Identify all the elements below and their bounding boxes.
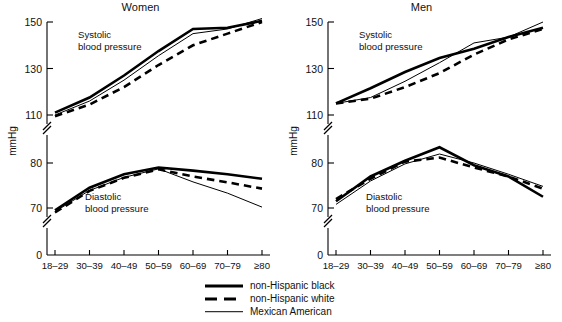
legend-label-non-hispanic-black: non-Hispanic black [250, 280, 335, 291]
legend-swatch-solid-thick-icon [205, 279, 243, 292]
y-tick-label: 70 [311, 202, 323, 214]
y-axis-title: mmHg [288, 126, 299, 155]
y-tick-label: 150 [24, 16, 42, 28]
axis-break-mark [43, 126, 51, 134]
annotation-systolic: Systolic [359, 29, 392, 40]
x-tick-label: 18–29 [323, 260, 350, 271]
y-tick-label: 130 [24, 63, 42, 75]
y-tick-label: 110 [306, 109, 323, 121]
annotation-systolic: blood pressure [359, 41, 422, 52]
y-tick-label: 80 [311, 157, 323, 169]
panel-title-men: Men [281, 1, 562, 13]
plot-men: 15013011080700mmHg18–2930–3940–4950–5960… [281, 14, 562, 276]
chart-panel-women: Women 15013011080700mmHg18–2930–3940–495… [0, 0, 281, 276]
x-tick-label: 60–69 [180, 260, 207, 271]
x-tick-label: 60–69 [461, 260, 488, 271]
legend-swatch-solid-thin-icon [205, 305, 243, 318]
x-tick-label: 50–59 [145, 260, 172, 271]
legend-item-non-hispanic-black: non-Hispanic black [205, 279, 405, 292]
annotation-systolic: Systolic [78, 29, 111, 40]
x-tick-label: 18–29 [42, 260, 69, 271]
annotation-diastolic: blood pressure [366, 203, 429, 214]
legend-item-mexican-american: Mexican American [205, 305, 405, 318]
annotation-diastolic: Diastolic [366, 191, 402, 202]
annotation-diastolic: blood pressure [85, 203, 148, 214]
plot-women: 15013011080700mmHg18–2930–3940–4950–5960… [0, 14, 281, 276]
y-axis-title: mmHg [7, 126, 18, 155]
x-tick-label: 70–79 [495, 260, 522, 271]
y-tick-label: 150 [305, 16, 323, 28]
annotation-systolic: blood pressure [78, 41, 141, 52]
legend-label-non-hispanic-white: non-Hispanic white [250, 293, 335, 304]
y-tick-label: 110 [25, 109, 42, 121]
y-tick-label: 70 [30, 202, 42, 214]
x-tick-label: 70–79 [214, 260, 241, 271]
panel-title-women: Women [0, 1, 281, 13]
x-tick-label: 40–49 [111, 260, 138, 271]
x-tick-label: 40–49 [392, 260, 419, 271]
axis-break-mark [324, 219, 332, 227]
chart-panel-men: Men 15013011080700mmHg18–2930–3940–4950–… [281, 0, 562, 276]
x-tick-label: ≥80 [535, 260, 551, 271]
x-tick-label: 30–39 [357, 260, 384, 271]
legend-item-non-hispanic-white: non-Hispanic white [205, 292, 405, 305]
y-tick-label: 80 [30, 157, 42, 169]
axis-break-mark [43, 219, 51, 227]
x-tick-label: ≥80 [254, 260, 270, 271]
x-tick-label: 50–59 [426, 260, 453, 271]
y-tick-label: 130 [305, 63, 323, 75]
annotation-diastolic: Diastolic [85, 191, 121, 202]
figure-root: Women 15013011080700mmHg18–2930–3940–495… [0, 0, 562, 322]
legend: non-Hispanic black non-Hispanic white Me… [205, 279, 405, 318]
x-tick-label: 30–39 [76, 260, 103, 271]
axis-break-mark [324, 126, 332, 134]
legend-swatch-dashed-thick-icon [205, 292, 243, 305]
legend-label-mexican-american: Mexican American [250, 306, 332, 317]
